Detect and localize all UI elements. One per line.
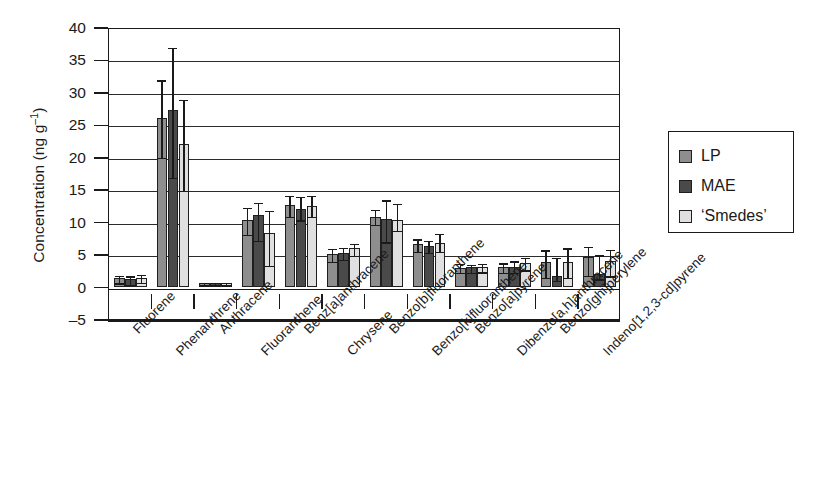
error-bar-cap-upper [424,241,433,242]
y-tick-mark [94,27,108,29]
error-bar-cap-upper [254,203,263,204]
y-tick-mark [94,222,108,224]
legend-item[interactable]: ‘Smedes’ [679,201,793,231]
error-bar [397,204,398,231]
error-bar [428,241,429,253]
error-bar [161,81,162,159]
error-bar-cap-lower [435,252,444,253]
error-bar-cap-upper [350,244,359,245]
legend-item[interactable]: MAE [679,171,793,201]
error-bar-cap-upper [499,263,508,264]
error-bar-cap-lower [222,285,231,286]
error-bar-cap-lower [563,278,572,279]
error-bar-cap-lower [541,278,550,279]
error-bar-cap-lower [126,285,135,286]
y-tick-label: 25 [69,117,86,133]
error-bar [269,211,270,266]
error-bar [183,100,184,191]
error-bar-cap-upper [200,283,209,284]
error-bar-cap-lower [339,260,348,261]
legend-label: ‘Smedes’ [701,208,767,224]
y-tick-mark [94,254,108,256]
error-bar-cap-upper [563,248,572,249]
error-bar-cap-upper [541,250,550,251]
y-tick-label: 15 [69,182,86,198]
x-tick-mark [449,294,450,309]
y-tick-mark [94,125,108,127]
error-bar-cap-upper [211,283,220,284]
legend-label: LP [701,148,721,164]
error-bar-cap-lower [115,283,124,284]
error-bar-cap-lower [285,217,294,218]
error-bar-cap-lower [265,266,274,267]
error-bar-cap-upper [115,276,124,277]
legend-item[interactable]: LP [679,141,793,171]
y-tick-label: 0 [77,280,86,296]
y-tick-mark [94,287,108,289]
error-bar-cap-lower [478,272,487,273]
error-bar-cap-lower [137,283,146,284]
legend-swatch [679,210,692,223]
error-bar-cap-lower [296,220,305,221]
error-bar-cap-lower [307,217,316,218]
bar-group [280,29,323,319]
error-bar-cap-upper [265,211,274,212]
error-bar-cap-lower [371,225,380,226]
error-bar [343,248,344,260]
error-bar [386,201,387,243]
error-bar-cap-lower [393,231,402,232]
error-bar-cap-upper [393,204,402,205]
error-bar-cap-lower [168,178,177,179]
error-bar [258,204,259,242]
error-bar [289,196,290,217]
y-tick-label: 20 [69,150,86,166]
error-bar-cap-upper [296,197,305,198]
error-bar [375,211,376,226]
error-bar-cap-lower [328,262,337,263]
bar-group [152,29,195,319]
error-bar [247,209,248,236]
error-bar-cap-lower [179,191,188,192]
error-bar [311,196,312,217]
y-tick-label: 30 [69,85,86,101]
error-bar-cap-lower [211,285,220,286]
error-bar-cap-upper [285,196,294,197]
error-bar [172,49,173,179]
error-bar-cap-lower [413,252,422,253]
bar-group [109,29,152,319]
legend-label: MAE [701,178,736,194]
error-bar [354,244,355,256]
error-bar-cap-lower [157,158,166,159]
error-bar [545,251,546,278]
error-bar-cap-upper [552,258,561,259]
y-tick-label: 10 [69,215,86,231]
error-bar-cap-upper [584,247,593,248]
error-bar [332,250,333,263]
error-bar-cap-upper [339,248,348,249]
error-bar [567,249,568,278]
error-bar-cap-upper [157,80,166,81]
error-bar-cap-upper [328,249,337,250]
error-bar-cap-upper [243,208,252,209]
error-bar-cap-lower [552,281,561,282]
legend: LPMAE‘Smedes’ [668,131,794,233]
error-bar-cap-upper [595,255,604,256]
x-tick-mark [364,294,365,309]
error-bar-cap-lower [350,256,359,257]
error-bar-cap-upper [179,100,188,101]
error-bar-cap-upper [478,264,487,265]
y-tick-label: –5 [69,312,86,328]
error-bar-cap-lower [254,241,263,242]
legend-swatch [679,180,692,193]
bar-group [237,29,280,319]
error-bar [300,198,301,221]
error-bar-cap-upper [137,275,146,276]
error-bar-cap-lower [200,285,209,286]
error-bar-cap-upper [168,48,177,49]
error-bar-cap-upper [371,210,380,211]
error-bar-cap-upper [521,258,530,259]
error-bar-cap-lower [382,242,391,243]
bar [307,206,318,287]
error-bar-cap-upper [382,200,391,201]
error-bar-cap-lower [424,253,433,254]
